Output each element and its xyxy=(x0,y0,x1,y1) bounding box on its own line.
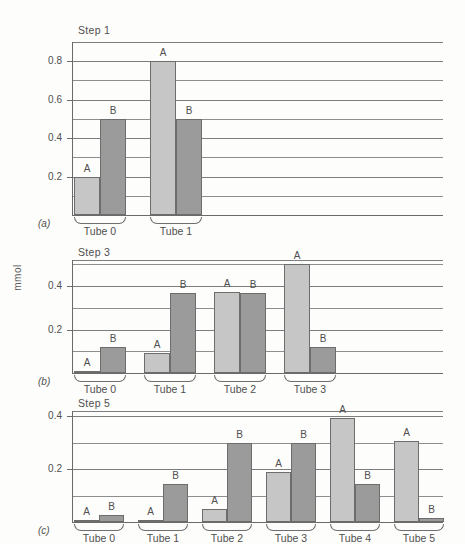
y-tick xyxy=(67,469,72,470)
y-tick xyxy=(67,416,72,417)
group-label: Tube 1 xyxy=(128,532,198,544)
bar-a xyxy=(74,371,100,373)
x-axis-line xyxy=(72,522,443,523)
bar-label: A xyxy=(144,339,170,350)
bar-b xyxy=(240,293,266,373)
bar-a xyxy=(138,520,163,522)
y-tick-label: 0.6 xyxy=(32,94,62,105)
gridline xyxy=(72,177,443,178)
x-axis-line xyxy=(72,215,443,216)
y-tick-label: 0.4 xyxy=(32,280,62,291)
bar-a xyxy=(394,441,419,522)
y-tick-label: 0.2 xyxy=(32,324,62,335)
panel-title: Step 5 xyxy=(78,397,110,409)
group-label: Tube 1 xyxy=(140,225,212,237)
gridline xyxy=(72,157,443,158)
group-label: Tube 0 xyxy=(64,383,136,395)
bar-label: A xyxy=(138,506,163,517)
bar-b xyxy=(176,119,202,215)
group-brace xyxy=(202,524,252,531)
y-tick-label: 0.2 xyxy=(32,463,62,474)
bar-a xyxy=(330,418,355,522)
y-tick-label: 0.4 xyxy=(32,132,62,143)
bar-label: B xyxy=(163,470,188,481)
group-brace xyxy=(138,524,188,531)
y-axis-line xyxy=(72,42,73,215)
gridline xyxy=(72,443,443,444)
bar-b xyxy=(355,484,380,522)
bar-a xyxy=(284,264,310,373)
group-label: Tube 2 xyxy=(204,383,276,395)
bar-label: A xyxy=(214,278,240,289)
group-brace xyxy=(214,375,266,382)
group-brace xyxy=(266,524,316,531)
figure-root: mmol 0.20.40.60.8Step 1(a)ABTube 0ABTube… xyxy=(0,0,465,544)
gridline-top xyxy=(72,260,443,261)
y-tick-label: 0.4 xyxy=(32,410,62,421)
group-label: Tube 0 xyxy=(64,532,134,544)
bar-a xyxy=(202,509,227,522)
bar-label: A xyxy=(74,357,100,368)
bar-label: B xyxy=(227,429,252,440)
group-label: Tube 1 xyxy=(134,383,206,395)
bar-a xyxy=(144,353,170,373)
gridline xyxy=(72,138,443,139)
group-brace xyxy=(74,375,126,382)
bar-b xyxy=(419,518,444,522)
bar-b xyxy=(170,293,196,373)
bar-b xyxy=(310,347,336,373)
group-label: Tube 5 xyxy=(384,532,454,544)
bar-b xyxy=(100,347,126,373)
bar-label: B xyxy=(240,279,266,290)
bar-b xyxy=(163,484,188,522)
group-brace xyxy=(74,524,124,531)
bar-label: A xyxy=(394,427,419,438)
bar-label: A xyxy=(330,404,355,415)
gridline xyxy=(72,61,443,62)
bar-label: A xyxy=(266,458,291,469)
gridline xyxy=(72,496,443,497)
gridline xyxy=(72,469,443,470)
bar-a xyxy=(150,61,176,215)
group-brace xyxy=(150,217,202,224)
y-tick xyxy=(67,61,72,62)
group-brace xyxy=(284,375,336,382)
gridline xyxy=(72,416,443,417)
y-tick xyxy=(67,286,72,287)
gridline xyxy=(72,80,443,81)
group-label: Tube 0 xyxy=(64,225,136,237)
y-axis-label: mmol xyxy=(12,248,23,308)
bar-label: B xyxy=(310,333,336,344)
gridline xyxy=(72,100,443,101)
group-brace xyxy=(394,524,444,531)
gridline xyxy=(72,264,443,265)
bar-label: A xyxy=(74,163,100,174)
y-tick-label: 0.2 xyxy=(32,171,62,182)
bar-a xyxy=(266,472,291,522)
bar-label: A xyxy=(150,47,176,58)
y-tick xyxy=(67,138,72,139)
bar-a xyxy=(74,177,100,215)
bar-label: B xyxy=(170,279,196,290)
bar-a xyxy=(214,292,240,373)
group-label: Tube 2 xyxy=(192,532,262,544)
bar-b xyxy=(100,119,126,215)
group-label: Tube 3 xyxy=(256,532,326,544)
group-brace xyxy=(74,217,126,224)
gridline-top xyxy=(72,42,443,43)
panel-title: Step 1 xyxy=(78,24,110,36)
y-tick xyxy=(67,330,72,331)
bar-label: B xyxy=(100,333,126,344)
bar-label: B xyxy=(419,504,444,515)
y-axis-line xyxy=(72,260,73,373)
gridline xyxy=(72,196,443,197)
bar-label: B xyxy=(100,105,126,116)
bar-label: A xyxy=(202,495,227,506)
panel-letter: (c) xyxy=(38,525,50,536)
bar-label: A xyxy=(74,506,99,517)
panel-letter: (b) xyxy=(38,376,50,387)
y-tick xyxy=(67,100,72,101)
bar-label: B xyxy=(291,429,316,440)
group-brace xyxy=(330,524,380,531)
y-tick-label: 0.8 xyxy=(32,55,62,66)
